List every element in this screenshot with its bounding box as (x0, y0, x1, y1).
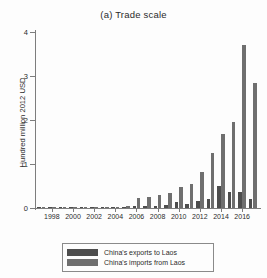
x-tick-2016 (242, 208, 243, 212)
bar-imports-2003 (105, 207, 109, 208)
bar-exports-2015 (228, 192, 232, 208)
x-tick-2006 (136, 208, 137, 212)
legend-item-exports: China's exports to Laos (67, 248, 209, 257)
chart-figure: (a) Trade scale Hundred million 2012 USD… (0, 0, 267, 278)
y-tick-label-0: 0 (19, 204, 28, 213)
bar-imports-2017 (253, 83, 257, 208)
bar-exports-2001 (80, 207, 84, 208)
bar-exports-2004 (111, 207, 115, 208)
bar-exports-2014 (217, 186, 221, 208)
x-tick-label-2016: 2016 (229, 213, 255, 220)
x-tick-2010 (179, 208, 180, 212)
bar-exports-2009 (164, 205, 168, 208)
bar-exports-1997 (37, 207, 41, 208)
legend-label-imports: China's imports from Laos (104, 259, 185, 266)
bar-imports-2007 (147, 197, 151, 208)
bar-imports-2004 (116, 207, 120, 208)
y-tick-4 (30, 32, 35, 33)
bar-imports-2016 (242, 45, 246, 208)
y-tick-label-2: 2 (19, 116, 28, 125)
x-tick-2002 (94, 208, 95, 212)
bar-exports-1999 (59, 207, 63, 208)
bar-imports-2010 (179, 187, 183, 208)
bar-imports-1997 (42, 207, 46, 208)
bar-exports-2008 (154, 206, 158, 208)
y-tick-1 (30, 164, 35, 165)
y-tick-2 (30, 120, 35, 121)
bar-imports-2006 (137, 198, 141, 208)
bar-exports-2017 (249, 199, 253, 208)
y-tick-0 (30, 208, 35, 209)
x-tick-2004 (115, 208, 116, 212)
chart-legend: China's exports to Laos China's imports … (62, 243, 214, 272)
y-tick-label-4: 4 (19, 28, 28, 37)
bar-exports-2011 (185, 204, 189, 208)
bar-exports-2003 (101, 207, 105, 208)
y-tick-label-3: 3 (19, 72, 28, 81)
bar-exports-2006 (133, 206, 137, 208)
x-tick-2008 (158, 208, 159, 212)
bar-imports-2000 (73, 207, 77, 208)
bar-imports-2009 (168, 193, 172, 208)
bar-exports-2002 (90, 207, 94, 208)
bar-imports-2005 (126, 206, 130, 208)
legend-label-exports: China's exports to Laos (104, 249, 177, 256)
legend-swatch-imports (67, 259, 98, 266)
x-tick-2000 (73, 208, 74, 212)
x-axis-line (35, 208, 261, 209)
bar-exports-2012 (196, 201, 200, 208)
bar-exports-2013 (207, 199, 211, 208)
bar-imports-2014 (221, 134, 225, 208)
legend-item-imports: China's imports from Laos (67, 258, 209, 267)
bars-container (36, 32, 258, 208)
bar-imports-2008 (158, 195, 162, 208)
x-tick-1998 (52, 208, 53, 212)
bar-exports-2016 (238, 192, 242, 208)
y-tick-3 (30, 76, 35, 77)
bar-imports-2015 (232, 122, 236, 208)
bar-imports-2012 (200, 172, 204, 208)
x-tick-2012 (200, 208, 201, 212)
chart-title: (a) Trade scale (0, 9, 267, 20)
x-tick-2014 (221, 208, 222, 212)
legend-swatch-exports (67, 249, 98, 256)
bar-imports-2001 (84, 207, 88, 208)
bar-imports-1998 (52, 207, 56, 208)
y-tick-label-1: 1 (19, 160, 28, 169)
bar-imports-1999 (63, 207, 67, 208)
bar-exports-2005 (122, 207, 126, 208)
bar-exports-1998 (48, 207, 52, 208)
bar-exports-2000 (69, 207, 73, 208)
bar-exports-2007 (143, 206, 147, 208)
bar-imports-2011 (190, 184, 194, 208)
bar-imports-2013 (211, 153, 215, 208)
bar-exports-2010 (175, 202, 179, 208)
bar-imports-2002 (94, 207, 98, 208)
